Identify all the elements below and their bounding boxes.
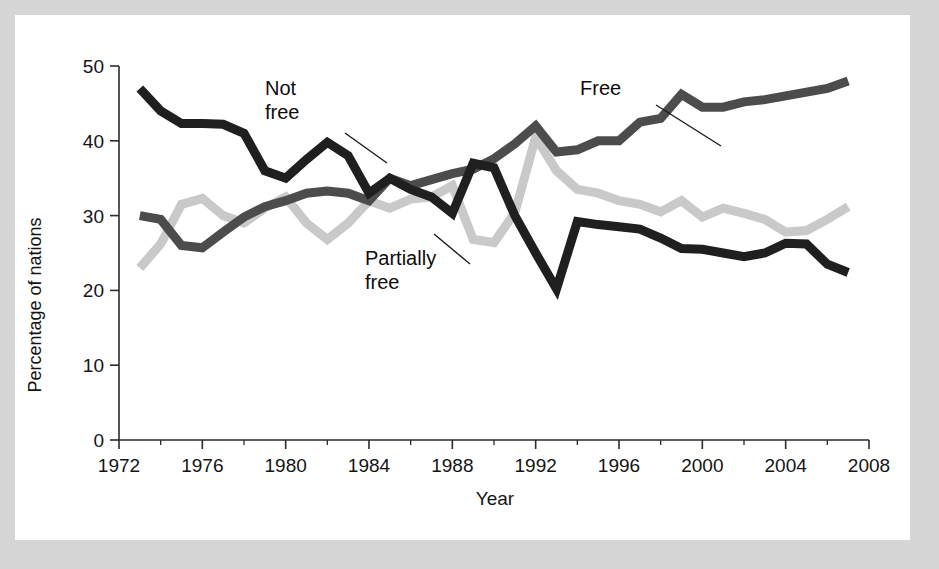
y-tick-label: 40 [83,131,104,152]
y-tick-label: 50 [83,56,104,77]
line-chart: 0102030405019721976198019841988199219962… [15,15,910,540]
x-tick-label: 1980 [265,455,307,476]
annotation-partially-free: Partiallyfree [365,247,436,293]
chart-card: 0102030405019721976198019841988199219962… [15,15,910,540]
x-axis-title: Year [476,488,515,509]
y-tick-label: 20 [83,280,104,301]
y-tick-label: 0 [93,430,104,451]
x-tick-label: 1972 [98,455,140,476]
x-tick-label: 1996 [598,455,640,476]
axes-group: 0102030405019721976198019841988199219962… [83,56,890,476]
y-axis-title: Percentage of nations [25,217,45,392]
series-group [140,81,848,289]
x-tick-label: 1984 [348,455,391,476]
x-tick-label: 1988 [431,455,473,476]
series-line-not-free [140,88,848,288]
x-tick-label: 2008 [848,455,890,476]
x-tick-label: 1992 [515,455,557,476]
annotation-free: Free [580,77,621,99]
figure-root: 0102030405019721976198019841988199219962… [0,0,939,569]
x-tick-label: 2004 [765,455,808,476]
y-tick-label: 10 [83,355,104,376]
x-tick-label: 1976 [181,455,223,476]
annotation-group: NotfreeFreePartiallyfree [265,77,721,293]
x-tick-label: 2000 [681,455,723,476]
y-tick-label: 30 [83,206,104,227]
leader-line-partially-free [434,234,470,264]
annotation-not-free: Notfree [265,77,299,123]
